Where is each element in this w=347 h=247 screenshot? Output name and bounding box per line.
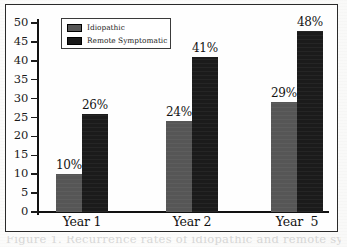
figure-frame: 50454035302520151050 10%26%24%41%29%48% … (5, 4, 338, 232)
value-label-remote-symptomatic-year-2: 41% (192, 42, 218, 54)
figure-inner: 50454035302520151050 10%26%24%41%29%48% … (6, 5, 337, 231)
y-axis-label-25: 25 (6, 112, 28, 124)
y-axis-tick-45 (31, 41, 38, 43)
y-axis-tick-40 (31, 60, 38, 62)
y-axis-tick-35 (31, 79, 38, 81)
y-axis-label-30: 30 (6, 93, 28, 105)
y-axis-tick-50 (31, 22, 38, 24)
y-axis-tick-25 (31, 117, 38, 119)
x-axis-label-year-1: Year 1 (40, 215, 124, 229)
chart-legend[interactable]: Idiopathic Remote Symptomatic (61, 18, 171, 49)
y-axis-label-50: 50 (6, 17, 28, 29)
y-axis-label-35: 35 (6, 74, 28, 86)
y-axis-tick-15 (31, 155, 38, 157)
y-axis-label-45: 45 (6, 36, 28, 48)
y-axis-label-20: 20 (6, 130, 28, 142)
bar-idiopathic-year-5[interactable] (271, 102, 297, 212)
bar-chart-plot-area: 50454035302520151050 10%26%24%41%29%48% … (6, 5, 337, 231)
y-axis-label-10: 10 (6, 168, 28, 180)
bar-remote-symptomatic-year-2[interactable] (192, 57, 218, 212)
y-axis-label-15: 15 (6, 149, 28, 161)
value-label-idiopathic-year-1: 10% (56, 159, 82, 171)
scanned-page-background: 50454035302520151050 10%26%24%41%29%48% … (0, 0, 347, 247)
legend-swatch-black-icon (67, 37, 82, 45)
y-axis-tick-30 (31, 98, 38, 100)
legend-swatch-gray-icon (67, 24, 82, 32)
legend-item-remote-symptomatic: Remote Symptomatic (67, 35, 166, 46)
bar-remote-symptomatic-year-5[interactable] (297, 31, 323, 212)
bar-idiopathic-year-1[interactable] (56, 174, 82, 212)
figure-caption-text: Figure 1. Recurrence rates of idiopathic… (6, 236, 341, 246)
bar-idiopathic-year-2[interactable] (166, 121, 192, 212)
y-axis-tick-10 (31, 173, 38, 175)
x-axis-label-year-5: Year 5 (255, 215, 337, 229)
legend-label-idiopathic: Idiopathic (87, 24, 125, 32)
y-axis-label-40: 40 (6, 55, 28, 67)
value-label-idiopathic-year-2: 24% (166, 106, 192, 118)
y-axis-tick-20 (31, 136, 38, 138)
value-label-remote-symptomatic-year-5: 48% (297, 16, 323, 28)
figure-caption-clipped: Figure 1. Recurrence rates of idiopathic… (6, 236, 341, 247)
value-label-remote-symptomatic-year-1: 26% (82, 99, 108, 111)
x-axis-label-year-2: Year 2 (150, 215, 234, 229)
y-axis-label-0: 0 (6, 206, 28, 218)
y-axis-tick-5 (31, 192, 38, 194)
value-label-idiopathic-year-5: 29% (271, 87, 297, 99)
legend-label-remote-symptomatic: Remote Symptomatic (87, 37, 167, 45)
y-axis-label-5: 5 (6, 187, 28, 199)
bar-remote-symptomatic-year-1[interactable] (82, 114, 108, 212)
y-axis-tick-0 (31, 211, 38, 213)
legend-item-idiopathic: Idiopathic (67, 22, 166, 33)
